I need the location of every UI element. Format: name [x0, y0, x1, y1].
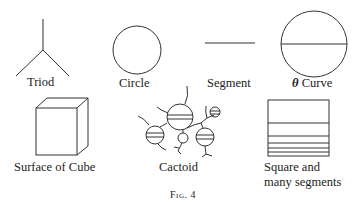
label-theta-curve: θ Curve [292, 76, 332, 90]
label-circle: Circle [119, 76, 150, 90]
theta-symbol: θ [292, 76, 299, 90]
circle-shape [113, 26, 161, 74]
cube-shape [36, 98, 88, 155]
figure-caption: Fig. 4 [170, 189, 196, 200]
triod-shape [16, 19, 69, 76]
label-curve: Curve [302, 76, 333, 90]
label-triod: Triod [27, 75, 54, 89]
cactoid-shape [138, 86, 220, 157]
label-cactoid: Cactoid [159, 160, 198, 174]
label-square-line2: many segments [264, 175, 341, 189]
square-segments-shape [268, 100, 329, 156]
theta-curve-shape [281, 11, 347, 77]
label-surface-of-cube: Surface of Cube [14, 160, 95, 174]
label-segment: Segment [207, 76, 251, 90]
label-square-line1: Square and [264, 160, 320, 174]
